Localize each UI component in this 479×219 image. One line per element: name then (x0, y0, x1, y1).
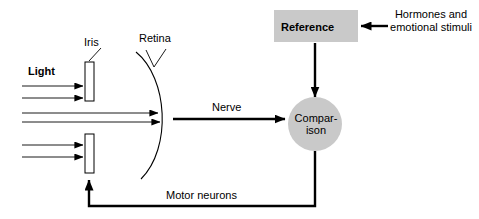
comparison-label-line1: Compar- (287, 112, 345, 124)
iris-leader-line (89, 48, 101, 61)
comparison-label-line2: ison (287, 124, 345, 136)
iris-upper-shape (85, 62, 94, 101)
light-rays-upper (22, 86, 83, 98)
retina-leader-line (146, 49, 166, 67)
nerve-label: Nerve (212, 101, 241, 114)
light-rays-central (22, 113, 160, 122)
diagram-canvas: Iris Retina Light Nerve Motor neurons Re… (0, 0, 479, 219)
comparison-label: Compar- ison (287, 112, 345, 136)
retina-arc (136, 52, 162, 179)
reference-label: Reference (281, 21, 334, 34)
light-label: Light (28, 65, 55, 78)
light-rays-lower (22, 145, 83, 157)
motor-neurons-label: Motor neurons (166, 189, 237, 202)
hormones-label: Hormones and emotional stimuli (389, 8, 473, 34)
iris-label: Iris (84, 36, 99, 49)
retina-label: Retina (139, 32, 171, 45)
iris-lower-shape (85, 134, 94, 173)
